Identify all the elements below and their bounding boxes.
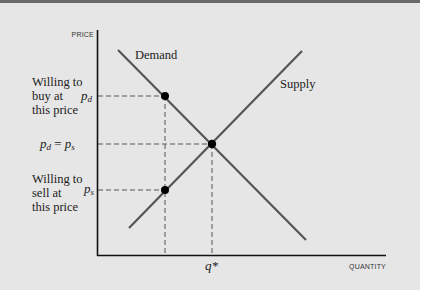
supply-label: Supply (280, 77, 316, 91)
x-axis-label: QUANTITY (349, 263, 386, 271)
supply-price-point (161, 186, 169, 194)
supply-demand-diagram: PRICE QUANTITY Demand Supply pd pd = ps … (0, 0, 427, 290)
equilibrium-price-label: pd = ps (39, 136, 75, 152)
ps-label: ps (83, 181, 95, 197)
buy-annotation: Willing to buy at this price (32, 75, 83, 117)
svg-text:this price: this price (32, 103, 79, 117)
y-axis-label: PRICE (72, 31, 95, 38)
supply-curve (129, 51, 302, 228)
equilibrium-point (208, 140, 216, 148)
equilibrium-quantity-label: q* (205, 258, 219, 273)
demand-label: Demand (135, 48, 178, 62)
svg-text:Willing to: Willing to (32, 172, 83, 186)
svg-text:this price: this price (32, 200, 79, 214)
svg-text:buy at: buy at (32, 89, 63, 103)
svg-text:sell at: sell at (32, 186, 62, 200)
pd-label: pd (80, 88, 93, 104)
demand-price-point (161, 92, 169, 100)
svg-text:Willing to: Willing to (32, 75, 83, 89)
sell-annotation: Willing to sell at this price (32, 172, 83, 214)
